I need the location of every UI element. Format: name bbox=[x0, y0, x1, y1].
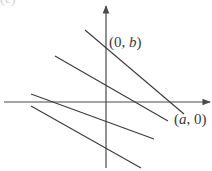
label-text: (0, bbox=[109, 34, 129, 50]
label-var-a: a bbox=[179, 111, 187, 127]
label-x-intercept: (a, 0) bbox=[174, 112, 207, 127]
parallel-line-4 bbox=[31, 106, 141, 168]
label-y-intercept: (0, b) bbox=[109, 35, 142, 50]
parallel-line-2 bbox=[55, 56, 168, 121]
coordinate-diagram bbox=[0, 0, 212, 171]
label-var-b: b bbox=[129, 34, 137, 50]
label-text: ) bbox=[137, 34, 142, 50]
label-text: , 0) bbox=[187, 111, 207, 127]
